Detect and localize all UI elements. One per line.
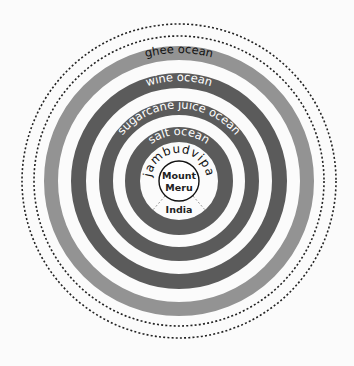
cosmology-diagram: ghee ocean wine ocean sugarcane juice oc…: [0, 0, 354, 366]
mount-meru-label-line1: Mount: [162, 170, 197, 181]
india-wedge-left-line: [152, 196, 165, 211]
mount-meru-circle: [159, 161, 199, 201]
concentric-rings-diagram: ghee ocean wine ocean sugarcane juice oc…: [0, 0, 354, 366]
india-label: India: [166, 204, 193, 215]
india-wedge-right-line: [193, 196, 206, 211]
mount-meru-label-line2: Meru: [165, 182, 192, 193]
